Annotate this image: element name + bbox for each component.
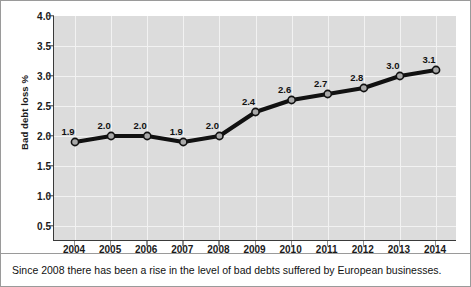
- data-point-label: 2.0: [206, 120, 219, 131]
- data-point-label: 1.9: [61, 126, 74, 137]
- data-point-label: 1.9: [170, 126, 183, 137]
- data-point-label: 2.8: [350, 72, 363, 83]
- data-point-label: 3.0: [386, 60, 399, 71]
- data-point-label: 2.0: [97, 120, 110, 131]
- chart-caption: Since 2008 there has been a rise in the …: [1, 254, 470, 286]
- data-point-label: 2.4: [242, 96, 255, 107]
- data-point-label: 2.7: [314, 78, 327, 89]
- data-point-label: 2.6: [278, 84, 291, 95]
- chart-figure: Bad debt loss % 4.03.53.02.52.01.51.00.5…: [0, 0, 471, 287]
- data-point-label: 2.0: [134, 120, 147, 131]
- data-point-label: 3.1: [422, 54, 435, 65]
- chart-area: Bad debt loss % 4.03.53.02.52.01.51.00.5…: [1, 1, 470, 253]
- data-point-labels: 1.92.02.01.92.02.42.62.72.83.03.1: [53, 16, 456, 241]
